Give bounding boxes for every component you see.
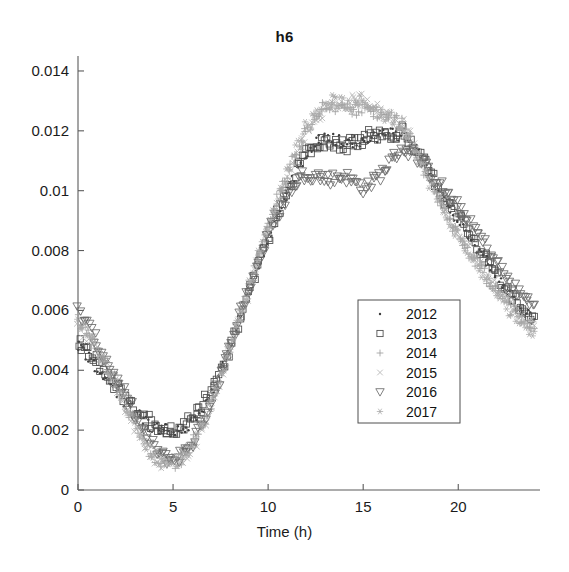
legend-label: 2014 bbox=[406, 345, 437, 361]
marker-x bbox=[320, 116, 326, 122]
y-tick-label: 0.012 bbox=[31, 122, 69, 139]
x-axis-label: Time (h) bbox=[0, 523, 569, 540]
marker-point bbox=[187, 429, 189, 431]
marker-square bbox=[344, 149, 350, 155]
marker-point bbox=[94, 370, 96, 372]
marker-asterisk bbox=[503, 306, 509, 312]
marker-point bbox=[315, 137, 317, 139]
y-tick-label: 0 bbox=[61, 481, 69, 498]
marker-point bbox=[353, 135, 355, 137]
y-tick-label: 0.008 bbox=[31, 242, 69, 259]
y-tick-label: 0.004 bbox=[31, 361, 69, 378]
series-2012 bbox=[77, 127, 535, 438]
legend[interactable]: 201220132014201520162017 bbox=[358, 300, 460, 423]
series-2014 bbox=[75, 99, 538, 472]
marker-plus bbox=[349, 111, 356, 118]
marker-square bbox=[194, 404, 200, 410]
x-tick-label: 5 bbox=[169, 498, 177, 515]
series-2013 bbox=[76, 122, 537, 437]
marker-point bbox=[456, 221, 458, 223]
marker-point bbox=[352, 146, 354, 148]
chart-title: h6 bbox=[0, 28, 569, 45]
legend-label: 2013 bbox=[406, 326, 437, 342]
marker-x bbox=[287, 176, 293, 182]
x-tick-label: 10 bbox=[260, 498, 277, 515]
marker-square bbox=[299, 152, 305, 158]
chart-canvas: 00.0020.0040.0060.0080.010.0120.01405101… bbox=[0, 0, 569, 572]
y-tick-label: 0.006 bbox=[31, 301, 69, 318]
x-tick-label: 0 bbox=[74, 498, 82, 515]
y-tick-label: 0.002 bbox=[31, 421, 69, 438]
y-tick-label: 0.01 bbox=[40, 182, 69, 199]
legend-label: 2017 bbox=[406, 404, 437, 420]
marker-asterisk bbox=[302, 119, 308, 125]
legend-label: 2012 bbox=[406, 306, 437, 322]
series-2016 bbox=[73, 145, 539, 468]
marker-point bbox=[346, 143, 348, 145]
y-tick-label: 0.014 bbox=[31, 62, 69, 79]
legend-label: 2015 bbox=[406, 365, 437, 381]
marker-asterisk bbox=[136, 425, 142, 431]
x-tick-label: 15 bbox=[355, 498, 372, 515]
marker-point bbox=[391, 128, 393, 130]
marker-x bbox=[350, 92, 356, 98]
marker-point bbox=[332, 133, 334, 135]
legend-label: 2016 bbox=[406, 384, 437, 400]
marker-point bbox=[379, 313, 381, 315]
chart-figure: h6 00.0020.0040.0060.0080.010.0120.01405… bbox=[0, 0, 569, 572]
marker-point bbox=[165, 423, 167, 425]
marker-point bbox=[500, 277, 502, 279]
x-tick-label: 20 bbox=[450, 498, 467, 515]
